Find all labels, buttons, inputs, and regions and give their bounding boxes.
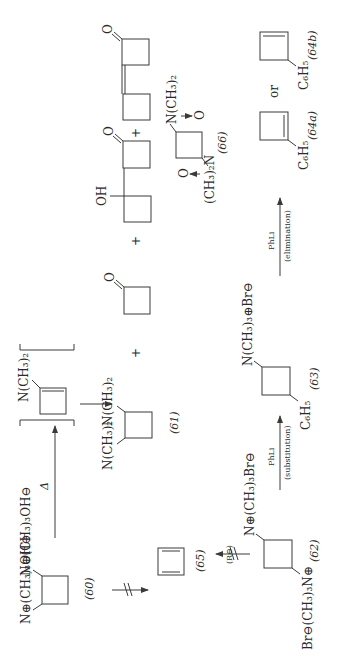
compound-60: N⊕(CH₃)₃OH⊖ N⊕(CH₃)₃OH⊖ (60) — [19, 486, 96, 624]
intermediate-aminocyclobutene: N(CH₃)₂ — [17, 344, 74, 426]
heat-arrow: Δ — [38, 426, 55, 538]
phenyl-group: C₆H₅ — [297, 61, 311, 90]
compound-label: (63) — [308, 367, 321, 390]
reagent-label: (R⊖) — [225, 545, 234, 564]
substituent-2: C₆H₅ — [299, 401, 313, 430]
compound-64b: C₆H₅ (64b) — [260, 30, 319, 90]
carbonyl-oxygen: O — [102, 126, 116, 136]
carbonyl-oxygen: O — [103, 272, 117, 282]
substituent-1: N⊕(CH₃)₃Br⊖ — [243, 452, 257, 536]
n-oxide-oxygen: O — [193, 110, 207, 120]
compound-66: (CH₃)₂N N(CH₃)₂ O O (66) — [165, 75, 229, 204]
compound-label: (64a) — [306, 111, 319, 140]
compound-62: N⊕(CH₃)₃Br⊖ Br⊖(CH₃)₃N⊕ (62) — [243, 452, 321, 650]
hydroxy-ketone-dimer: OH O — [95, 126, 151, 222]
compound-61: N(CH₃)₂ N(CH₃)₂ (61) — [101, 377, 181, 470]
compound-label: (64b) — [306, 30, 319, 60]
plus-sign: + — [129, 348, 143, 358]
heat-label: Δ — [38, 482, 51, 491]
hydroxyl-group: OH — [95, 186, 109, 206]
compound-label: (61) — [168, 411, 181, 434]
alkylidene-ketone-dimer: O — [101, 24, 150, 120]
substituent-1: N(CH₃)₂ — [101, 421, 115, 470]
phenyl-group: C₆H₅ — [297, 141, 311, 170]
compound-63: N(CH₃)₃⊕Br⊖ C₆H₅ (63) — [241, 282, 321, 430]
n-oxide-oxygen: O — [177, 168, 191, 178]
cyclobutanone: O — [103, 272, 150, 314]
compound-label: (62) — [308, 539, 321, 562]
dimethylamino-group: N(CH₃)₂ — [17, 353, 31, 402]
compound-65: (65) — [158, 548, 207, 575]
carbonyl-oxygen: O — [101, 24, 115, 34]
elimination-arrow: PhLi (elimination) — [267, 198, 292, 276]
reagent-phli: PhLi — [267, 447, 276, 466]
condition-elimination: (elimination) — [283, 210, 292, 262]
substituent-2: Br⊖(CH₃)₃N⊕ — [301, 566, 315, 650]
compound-64a: C₆H₅ (64a) — [260, 111, 319, 170]
substituent-1: N(CH₃)₃⊕Br⊖ — [241, 282, 255, 366]
substitution-arrow: PhLi (substitution) — [267, 416, 292, 490]
reagent-phli: PhLi — [267, 231, 276, 250]
compound-label: (66) — [216, 131, 229, 154]
or-text: or — [267, 85, 281, 98]
plus-sign: + — [129, 128, 143, 138]
plus-sign: + — [129, 236, 143, 246]
no-reaction-arrow-62-65: (R⊖) — [216, 545, 250, 564]
substituent-2: (CH₃)₂N — [203, 155, 217, 204]
substituent-2: N⊕(CH₃)₃OH⊖ — [19, 486, 33, 576]
reaction-scheme: N⊕(CH₃)₃OH⊖ N⊕(CH₃)₃OH⊖ (60) Δ N(CH₃)₂ (… — [0, 0, 340, 666]
no-reaction-arrow-60-65 — [112, 583, 148, 596]
condition-substitution: (substitution) — [283, 425, 292, 480]
substituent-2: N(CH₃)₂ — [101, 377, 115, 426]
compound-label: (60) — [83, 577, 96, 600]
substituent-1: N(CH₃)₂ — [165, 75, 179, 124]
compound-label: (65) — [194, 549, 207, 572]
